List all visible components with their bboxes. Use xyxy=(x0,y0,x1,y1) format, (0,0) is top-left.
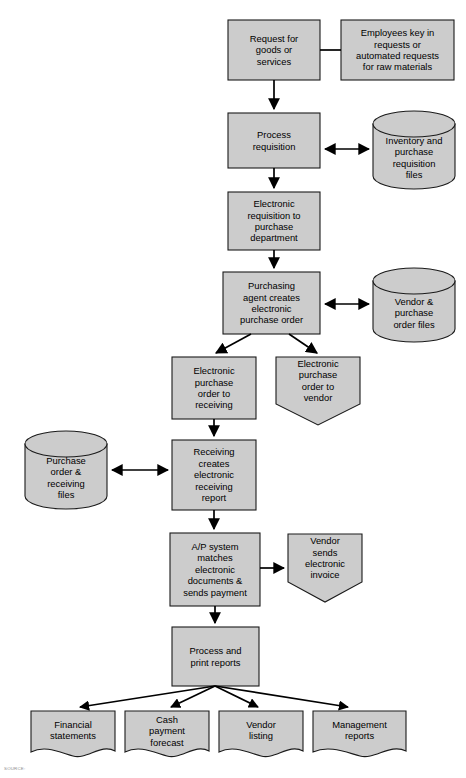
node-purchasing-agent-creates-po xyxy=(223,272,320,334)
node-employees-key-in-requests xyxy=(341,20,454,80)
node-vendor-sends-invoice xyxy=(288,534,362,602)
node-vendor-listing xyxy=(219,711,303,757)
node-vendor-purchase-order-files xyxy=(373,268,455,342)
connector-purchasing-agent-to-epo-receiving xyxy=(216,334,251,353)
node-cash-payment-forecast xyxy=(125,711,209,757)
node-management-reports xyxy=(313,711,406,757)
node-request-for-goods xyxy=(228,20,320,80)
node-electronic-requisition-to-purchase-dept xyxy=(228,192,320,250)
node-purchase-order-receiving-files xyxy=(25,431,107,509)
flowchart-canvas: Request for goods or services Employees … xyxy=(0,0,466,778)
node-financial-statements xyxy=(31,711,115,757)
connector-purchasing-agent-to-epo-vendor xyxy=(289,334,317,353)
flowchart-svg xyxy=(0,0,466,778)
node-receiving-creates-report xyxy=(172,440,256,510)
source-caption: SOURCE: xyxy=(4,766,25,771)
node-inventory-purchase-requisition-files xyxy=(373,111,455,189)
node-process-and-print-reports xyxy=(172,627,259,686)
node-epo-to-receiving xyxy=(172,357,256,419)
node-process-requisition xyxy=(228,113,320,168)
node-epo-to-vendor xyxy=(276,357,360,425)
node-ap-system-matches xyxy=(170,533,260,606)
